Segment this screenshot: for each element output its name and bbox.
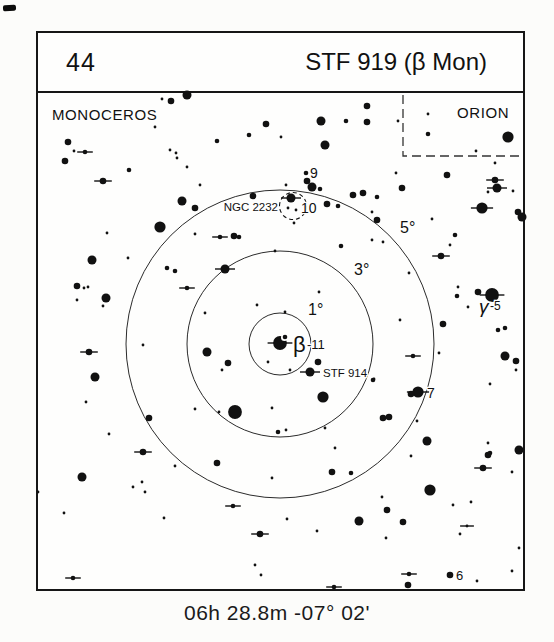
coordinates-caption: 06h 28.8m -07° 02' bbox=[0, 601, 554, 625]
chart-header: 44 STF 919 (β Mon) bbox=[38, 33, 523, 93]
finder-chart-page: 44 STF 919 (β Mon) 1°3°5°NGC 2232MONOCER… bbox=[0, 0, 554, 642]
chart-frame: 44 STF 919 (β Mon) bbox=[36, 31, 525, 591]
chart-title: STF 919 (β Mon) bbox=[305, 48, 487, 76]
chart-number: 44 bbox=[66, 48, 96, 77]
map-area bbox=[38, 93, 523, 589]
scan-artifact bbox=[3, 5, 16, 12]
